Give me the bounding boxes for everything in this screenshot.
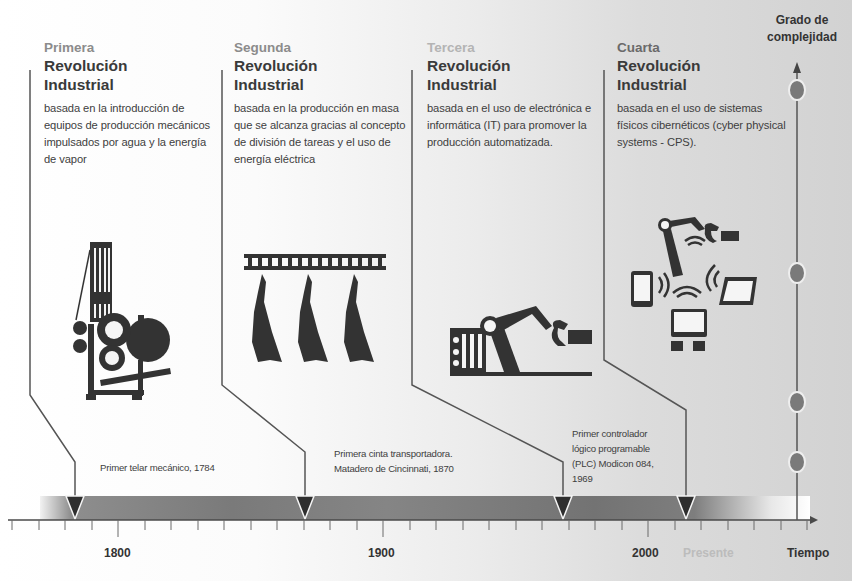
present-label: Presente (683, 546, 734, 560)
time-axis-label: Tiempo (787, 546, 829, 560)
revolution-ordinal: Cuarta (617, 40, 787, 56)
event-text: Primer telar mecánico, 1784 (100, 460, 215, 475)
revolution-ordinal: Tercera (427, 40, 593, 56)
event-text-line1: Primera cinta transportadora. (334, 446, 454, 461)
industrial-revolutions-diagram: Grado de complejidad Primera Revolución … (0, 0, 852, 581)
year-label-1900: 1900 (368, 546, 395, 560)
revolution-description: basada en el uso de electrónica e inform… (427, 100, 593, 151)
event-text-line1: Primer controlador (572, 426, 654, 441)
revolution-title-line2: Industrial (234, 75, 406, 94)
event-first-loom: Primer telar mecánico, 1784 (100, 460, 215, 475)
complexity-axis-arrow (793, 62, 801, 73)
complexity-level-2 (789, 392, 805, 412)
event-text-line4: 1969 (572, 471, 654, 486)
time-axis-arrow (810, 516, 818, 524)
complexity-level-1 (789, 452, 805, 472)
event-first-plc: Primer controlador lógico programable (P… (572, 426, 654, 486)
revolution-title-line2: Industrial (44, 75, 220, 94)
complexity-level-3 (789, 263, 805, 283)
complexity-level-4 (789, 80, 805, 100)
mechanical-loom-icon (70, 240, 180, 400)
revolution-title-line2: Industrial (427, 75, 593, 94)
revolution-description: basada en el uso de sistemas físicos cib… (617, 100, 787, 151)
event-text-line3: (PLC) Modicon 084, (572, 456, 654, 471)
robot-arm-icon (450, 300, 610, 380)
revolution-description: basada en la introducción de equipos de … (44, 100, 220, 168)
revolution-description: basada en la producción en masa que se a… (234, 100, 406, 168)
revolution-title-line1: Revolución (427, 56, 593, 75)
revolution-panel-4: Cuarta Revolución Industrial basada en e… (617, 40, 787, 151)
time-axis-ticks (12, 520, 807, 537)
revolution-ordinal: Primera (44, 40, 220, 56)
event-first-conveyor: Primera cinta transportadora. Matadero d… (334, 446, 454, 476)
year-label-1800: 1800 (104, 546, 131, 560)
revolution-panel-1: Primera Revolución Industrial basada en … (44, 40, 220, 168)
revolution-title-line2: Industrial (617, 75, 787, 94)
year-label-2000: 2000 (632, 546, 659, 560)
revolution-panel-3: Tercera Revolución Industrial basada en … (427, 40, 593, 151)
timeline-bar (40, 496, 810, 520)
event-text-line2: Matadero de Cincinnati, 1870 (334, 461, 454, 476)
complexity-label-line1: Grado de (766, 12, 838, 29)
revolution-panel-2: Segunda Revolución Industrial basada en … (234, 40, 406, 168)
event-text-line2: lógico programable (572, 441, 654, 456)
revolution-ordinal: Segunda (234, 40, 406, 56)
assembly-line-icon (242, 252, 392, 372)
revolution-title-line1: Revolución (234, 56, 406, 75)
cyber-physical-network-icon (625, 215, 775, 355)
revolution-title-line1: Revolución (44, 56, 220, 75)
revolution-title-line1: Revolución (617, 56, 787, 75)
